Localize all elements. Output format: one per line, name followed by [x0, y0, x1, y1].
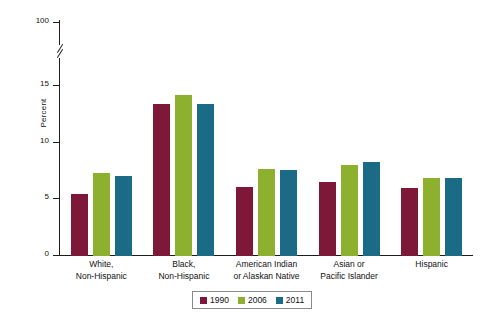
bar-group	[390, 20, 473, 256]
bar-2011	[363, 162, 380, 256]
category-label-line: Pacific Islander	[308, 271, 391, 283]
bar-group	[60, 20, 143, 256]
bar-2006	[175, 95, 192, 256]
y-tick-label: 5	[45, 192, 49, 201]
bar-1990	[71, 194, 88, 256]
x-axis-category-label: American Indianor Alaskan Native	[225, 259, 308, 282]
bar-group	[225, 20, 308, 256]
bar-2011	[280, 170, 297, 256]
legend-item-1990: 1990	[200, 295, 229, 305]
bar-group	[308, 20, 391, 256]
bar-chart: Percent 051015100 White,Non-HispanicBlac…	[0, 0, 491, 324]
chart-legend: 199020062011	[192, 291, 312, 309]
bar-2011	[115, 176, 132, 256]
legend-label: 2011	[286, 295, 304, 305]
category-label-line: Non-Hispanic	[60, 271, 143, 283]
legend-label: 2006	[248, 295, 267, 305]
y-tick-label: 15	[40, 79, 49, 88]
bar-2011	[445, 178, 462, 256]
bar-2011	[197, 104, 214, 256]
bar-1990	[153, 104, 170, 256]
y-tick-label: 100	[36, 16, 49, 25]
legend-item-2011: 2011	[276, 295, 304, 305]
bar-2006	[423, 178, 440, 256]
bar-2006	[258, 169, 275, 256]
bar-2006	[93, 173, 110, 256]
category-label-line: Asian or	[308, 259, 391, 271]
x-axis-category-labels: White,Non-HispanicBlack,Non-HispanicAmer…	[60, 259, 473, 282]
y-tick-5: 5	[53, 198, 60, 199]
x-axis-category-label: Black,Non-Hispanic	[143, 259, 226, 282]
category-label-line: or Alaskan Native	[225, 271, 308, 283]
category-label-line: Black,	[143, 259, 226, 271]
category-label-line: White,	[60, 259, 143, 271]
bar-group	[143, 20, 226, 256]
legend-swatch-icon	[200, 297, 207, 304]
y-tick-10: 10	[53, 142, 60, 143]
y-tick-100: 100	[53, 22, 60, 23]
legend-swatch-icon	[276, 297, 283, 304]
legend-label: 1990	[210, 295, 229, 305]
bar-1990	[319, 182, 336, 256]
legend-swatch-icon	[238, 297, 245, 304]
category-label-line: Non-Hispanic	[143, 271, 226, 283]
bar-2006	[341, 165, 358, 256]
x-axis-category-label: Asian orPacific Islander	[308, 259, 391, 282]
bar-1990	[236, 187, 253, 256]
bar-groups	[60, 20, 473, 256]
category-label-line: American Indian	[225, 259, 308, 271]
y-tick-0: 0	[53, 255, 60, 256]
x-axis-category-label: Hispanic	[390, 259, 473, 282]
x-axis-category-label: White,Non-Hispanic	[60, 259, 143, 282]
y-tick-label: 10	[40, 136, 49, 145]
legend-item-2006: 2006	[238, 295, 267, 305]
bar-1990	[401, 188, 418, 256]
category-label-line: Hispanic	[390, 259, 473, 271]
y-tick-15: 15	[53, 85, 60, 86]
y-tick-label: 0	[45, 249, 49, 258]
